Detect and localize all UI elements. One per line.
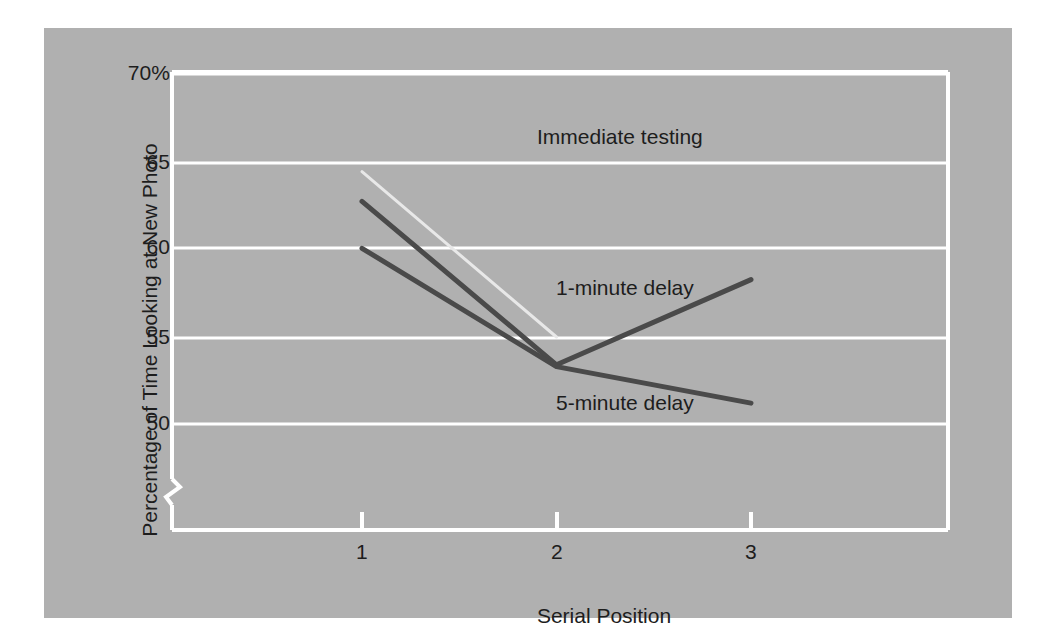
series-line-immediate-testing bbox=[362, 172, 557, 337]
gridlines bbox=[172, 74, 948, 424]
plot-svg bbox=[0, 0, 1046, 643]
series-line-5-minute-delay bbox=[362, 248, 751, 403]
axis-break-icon bbox=[166, 479, 180, 505]
axis-frame bbox=[166, 72, 948, 530]
figure-container: Percentage of Time Looking at New Photo … bbox=[0, 0, 1046, 643]
x-tick-marks bbox=[362, 512, 751, 530]
